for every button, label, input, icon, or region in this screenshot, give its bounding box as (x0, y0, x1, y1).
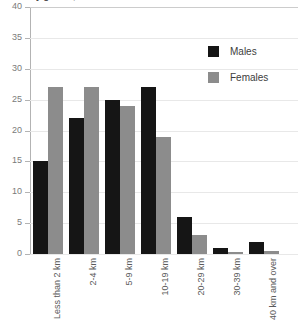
legend-item-males: Males (208, 38, 268, 64)
bar-group (177, 7, 208, 254)
bar-group (33, 7, 64, 254)
bar-females (84, 87, 99, 254)
y-axis-tick-label: 35 (0, 33, 22, 42)
x-axis-labels: Less than 2 km2-4 km5-9 km10-19 km20-29 … (30, 258, 298, 336)
x-axis-label: 10-19 km (160, 258, 171, 334)
x-axis-label: 20-29 km (196, 258, 207, 334)
y-axis-tick-label: 15 (0, 156, 22, 165)
chart-legend: Males Females (208, 38, 268, 90)
bar-chart: y gender, 200 0510152025303540 Less than… (0, 0, 302, 336)
bar-group (105, 7, 136, 254)
bar-males (33, 161, 48, 254)
bar-females (156, 137, 171, 254)
legend-label-females: Females (230, 72, 268, 83)
y-axis-tick (25, 254, 30, 255)
bar-males (105, 100, 120, 254)
bar-females (120, 106, 135, 254)
y-axis-tick-label: 5 (0, 218, 22, 227)
bar-males (141, 87, 156, 254)
y-axis-tick-label: 0 (0, 249, 22, 258)
y-axis-tick-label: 10 (0, 187, 22, 196)
bar-females (264, 251, 279, 254)
bar-males (69, 118, 84, 254)
x-axis-label: Less than 2 km (52, 258, 63, 334)
bar-females (228, 252, 243, 254)
x-axis-label: 30-39 km (232, 258, 243, 334)
bar-females (192, 235, 207, 254)
y-axis-tick-label: 25 (0, 95, 22, 104)
bar-group (141, 7, 172, 254)
bar-females (48, 87, 63, 254)
chart-title-text: y gender, 200 (36, 0, 236, 2)
y-axis-tick-label: 40 (0, 2, 22, 11)
bar-group (69, 7, 100, 254)
chart-title-clipped: y gender, 200 (36, 0, 236, 3)
legend-swatch-females-icon (208, 72, 219, 83)
bar-males (177, 217, 192, 254)
legend-item-females: Females (208, 64, 268, 90)
gridline (30, 254, 298, 255)
legend-label-males: Males (230, 46, 257, 57)
x-axis-label: 5-9 km (124, 258, 135, 334)
y-axis-tick-label: 30 (0, 64, 22, 73)
bar-males (213, 248, 228, 254)
x-axis-label: 40 km and over (268, 258, 279, 334)
y-axis-tick-label: 20 (0, 126, 22, 135)
x-axis-label: 2-4 km (88, 258, 99, 334)
bar-males (249, 242, 264, 254)
legend-swatch-males-icon (208, 46, 219, 57)
